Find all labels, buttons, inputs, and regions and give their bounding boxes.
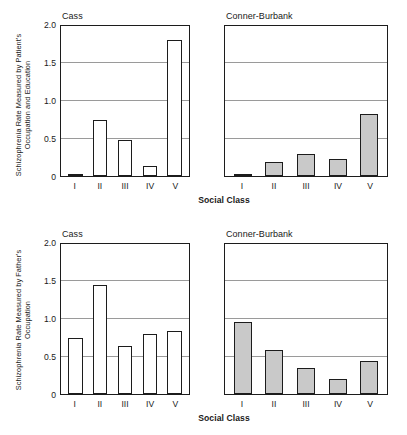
bar xyxy=(234,174,252,176)
x-axis-ticks-bottom-cass: IIIIIIIVV xyxy=(60,399,190,409)
y-tick-label: 0.5 xyxy=(30,352,56,362)
panel-title-bottom-cass: Cass xyxy=(62,229,83,239)
x-tick-label: IV xyxy=(329,399,347,409)
x-axis-label-top: Social Class xyxy=(60,195,388,205)
chart-bottom: Schizophrenia Rate Measured by Father's … xyxy=(0,218,407,435)
bar xyxy=(167,331,181,394)
x-axis-ticks-bottom-conner-burbank: IIIIIIIVV xyxy=(224,399,388,409)
bar xyxy=(297,368,315,394)
y-tick-label: 2.0 xyxy=(30,20,56,30)
x-tick-label: IV xyxy=(329,181,347,191)
bar-group-bottom-conner-burbank xyxy=(225,244,387,394)
x-tick-label: I xyxy=(67,399,81,409)
bar-group-bottom-cass xyxy=(61,244,189,394)
bar xyxy=(360,114,378,176)
x-tick-label: II xyxy=(265,399,283,409)
x-tick-label: V xyxy=(361,399,379,409)
y-tick-label: 0 xyxy=(30,172,56,182)
plot-panel-bottom-conner-burbank xyxy=(224,243,388,395)
x-tick-label: V xyxy=(361,181,379,191)
y-axis-ticks-bottom: 00.51.01.52.0 xyxy=(28,243,56,395)
y-axis-ticks-top: 00.51.01.52.0 xyxy=(28,25,56,177)
x-tick-label: III xyxy=(297,399,315,409)
bar xyxy=(265,350,283,394)
bar xyxy=(234,322,252,394)
bar xyxy=(68,174,82,176)
x-tick-label: I xyxy=(233,399,251,409)
x-tick-label: II xyxy=(265,181,283,191)
y-tick-label: 1.5 xyxy=(30,276,56,286)
bar xyxy=(93,285,107,394)
x-axis-ticks-top-conner-burbank: IIIIIIIVV xyxy=(224,181,388,191)
bar xyxy=(93,120,107,176)
y-tick-label: 0 xyxy=(30,390,56,400)
y-tick-label: 2.0 xyxy=(30,238,56,248)
panel-title-top-conner-burbank: Conner-Burbank xyxy=(226,11,293,21)
bar xyxy=(329,379,347,394)
x-tick-label: III xyxy=(118,399,132,409)
x-tick-label: IV xyxy=(143,181,157,191)
x-tick-label: I xyxy=(67,181,81,191)
plot-panel-bottom-cass xyxy=(60,243,190,395)
bar-group-top-conner-burbank xyxy=(225,26,387,176)
bar xyxy=(329,159,347,176)
panel-title-top-cass: Cass xyxy=(62,11,83,21)
bar xyxy=(68,338,82,394)
bar xyxy=(297,154,315,176)
x-axis-ticks-top-cass: IIIIIIIVV xyxy=(60,181,190,191)
bar-group-top-cass xyxy=(61,26,189,176)
bar xyxy=(265,162,283,176)
x-tick-label: II xyxy=(93,399,107,409)
figure-schizophrenia-rate-by-social-class: Schizophrenia Rate Measured by Patient's… xyxy=(0,0,407,435)
bar xyxy=(118,346,132,394)
y-tick-label: 0.5 xyxy=(30,134,56,144)
bar xyxy=(143,166,157,176)
x-axis-label-bottom: Social Class xyxy=(60,413,388,423)
x-tick-label: III xyxy=(118,181,132,191)
x-tick-label: IV xyxy=(143,399,157,409)
x-tick-label: II xyxy=(93,181,107,191)
bar xyxy=(360,361,378,394)
x-tick-label: V xyxy=(168,181,182,191)
y-tick-label: 1.0 xyxy=(30,96,56,106)
x-tick-label: I xyxy=(233,181,251,191)
panel-title-bottom-conner-burbank: Conner-Burbank xyxy=(226,229,293,239)
x-tick-label: V xyxy=(168,399,182,409)
y-tick-label: 1.0 xyxy=(30,314,56,324)
bar xyxy=(118,140,132,176)
bar xyxy=(143,334,157,394)
chart-top: Schizophrenia Rate Measured by Patient's… xyxy=(0,0,407,218)
bar xyxy=(167,40,181,176)
x-tick-label: III xyxy=(297,181,315,191)
plot-panel-top-cass xyxy=(60,25,190,177)
y-tick-label: 1.5 xyxy=(30,58,56,68)
plot-panel-top-conner-burbank xyxy=(224,25,388,177)
